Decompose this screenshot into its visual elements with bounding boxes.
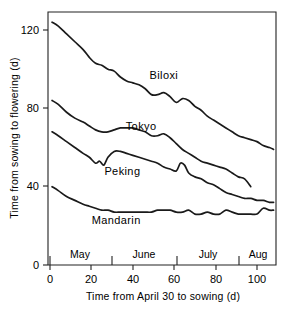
month-label-may: May (70, 248, 91, 260)
series-label-tokyo: Tokyo (126, 120, 157, 132)
x-axis-ticks (50, 265, 257, 270)
y-axis-ticks (43, 30, 48, 265)
month-label-aug: Aug (249, 248, 268, 260)
series-line-peking (52, 132, 273, 203)
data-series-group (52, 22, 273, 214)
series-label-mandarin: Mandarin (92, 214, 141, 226)
series-line-biloxi (52, 22, 273, 149)
y-axis-title: Time from sowing to flowering (d) (8, 57, 20, 218)
x-tick-label-100: 100 (248, 273, 266, 285)
x-tick-label-60: 60 (168, 273, 180, 285)
x-tick-label-0: 0 (47, 273, 53, 285)
chart-figure: 120 80 40 0 May June July Aug 0 20 40 60 (0, 0, 286, 318)
series-label-peking: Peking (104, 165, 140, 177)
plot-frame (48, 12, 276, 265)
month-label-july: July (199, 248, 218, 260)
x-tick-label-40: 40 (127, 273, 139, 285)
x-tick-label-20: 20 (85, 273, 97, 285)
month-label-june: June (133, 248, 156, 260)
x-axis-title: Time from April 30 to sowing (d) (86, 290, 240, 302)
x-tick-label-80: 80 (210, 273, 222, 285)
series-label-biloxi: Biloxi (149, 69, 178, 81)
line-chart: 120 80 40 0 May June July Aug 0 20 40 60 (0, 0, 286, 318)
series-line-tokyo (52, 101, 251, 187)
y-tick-label-0: 0 (33, 259, 39, 271)
y-tick-label-120: 120 (21, 24, 39, 36)
series-line-mandarin (52, 187, 273, 215)
y-tick-label-80: 80 (27, 102, 39, 114)
y-tick-label-40: 40 (27, 180, 39, 192)
